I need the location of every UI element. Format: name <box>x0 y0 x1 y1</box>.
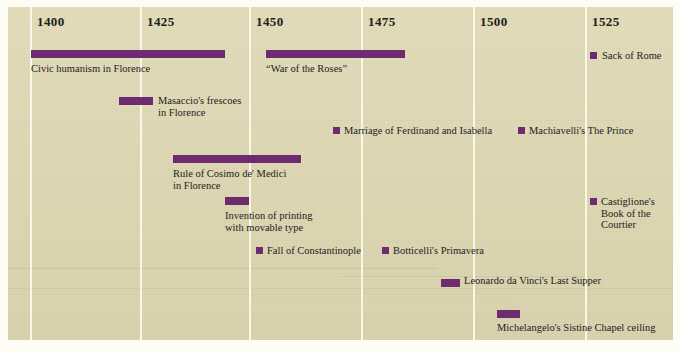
machiavelli-text-plain: Machiavelli's <box>529 125 588 136</box>
event-bar-sistine-chapel[interactable] <box>497 310 520 318</box>
year-label-1500: 1500 <box>480 14 508 30</box>
event-bar-cosimo-medici[interactable] <box>173 155 301 163</box>
gridline-1525 <box>585 7 587 340</box>
year-label-1425: 1425 <box>147 14 175 30</box>
event-label-cosimo-medici: Rule of Cosimo de' Medici in Florence <box>173 168 286 191</box>
event-bar-leonardo-last-supper[interactable] <box>441 279 460 287</box>
leonardo-text-plain: Leonardo da Vinci's <box>464 275 551 286</box>
leonardo-text-italic: Last Supper <box>551 275 601 286</box>
event-label-sack-of-rome: Sack of Rome <box>602 50 662 62</box>
gridline-1500 <box>473 7 475 340</box>
event-bar-masaccio[interactable] <box>119 97 153 105</box>
timeline-figure: 1400 1425 1450 1475 1500 1525 Civic huma… <box>0 0 681 353</box>
year-label-1400: 1400 <box>37 14 65 30</box>
event-bar-civic-humanism[interactable] <box>31 50 225 58</box>
machiavelli-text-italic: The Prince <box>588 125 634 136</box>
event-bar-machiavelli-prince[interactable] <box>518 127 525 134</box>
event-bar-printing-press[interactable] <box>225 197 249 205</box>
event-label-castiglione: Castiglione'sBook of the Courtier <box>601 196 655 231</box>
year-label-1525: 1525 <box>592 14 620 30</box>
event-bar-war-of-the-roses[interactable] <box>266 50 405 58</box>
event-label-war-of-the-roses: “War of the Roses” <box>266 63 347 75</box>
event-label-civic-humanism: Civic humanism in Florence <box>31 63 150 75</box>
event-label-leonardo-last-supper: Leonardo da Vinci's Last Supper <box>464 275 601 287</box>
event-label-sistine-chapel: Michelangelo's Sistine Chapel ceiling <box>497 322 655 334</box>
event-label-machiavelli-prince: Machiavelli's The Prince <box>529 125 633 137</box>
event-bar-fall-of-constantinople[interactable] <box>256 247 263 254</box>
event-label-botticelli-primavera: Botticelli's Primavera <box>393 245 484 257</box>
event-bar-sack-of-rome[interactable] <box>590 52 597 59</box>
botticelli-text-plain: Botticelli's <box>393 245 441 256</box>
event-bar-ferdinand-isabella[interactable] <box>333 127 340 134</box>
event-label-masaccio: Masaccio's frescoes in Florence <box>158 95 241 118</box>
botticelli-text-italic: Primavera <box>441 245 484 256</box>
year-label-1475: 1475 <box>368 14 396 30</box>
castiglione-text-plain: Castiglione's <box>601 196 655 207</box>
event-bar-castiglione[interactable] <box>590 198 597 205</box>
event-label-fall-of-constantinople: Fall of Constantinople <box>267 245 361 257</box>
event-label-printing-press: Invention of printing with movable type <box>225 210 313 233</box>
castiglione-text-italic: Book of the Courtier <box>601 208 651 231</box>
year-label-1450: 1450 <box>256 14 284 30</box>
event-bar-botticelli-primavera[interactable] <box>382 247 389 254</box>
event-label-ferdinand-isabella: Marriage of Ferdinand and Isabella <box>344 125 492 137</box>
